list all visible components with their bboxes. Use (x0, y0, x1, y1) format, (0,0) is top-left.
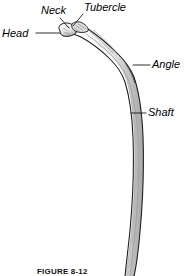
rib-outline-fill (62, 24, 143, 276)
label-shaft: Shaft (148, 107, 174, 118)
rib-body (59, 22, 143, 276)
label-head: Head (2, 28, 28, 39)
label-tubercle: Tubercle (84, 2, 126, 13)
rib-inner-shading-line (92, 38, 137, 232)
rib-illustration (0, 0, 188, 276)
rib-tubercle-fill (72, 22, 89, 33)
label-angle: Angle (152, 59, 180, 70)
rib-anatomy-figure: Head Neck Tubercle Angle Shaft FIGURE 8-… (0, 0, 188, 276)
label-neck: Neck (41, 5, 66, 16)
figure-caption: FIGURE 8-12 (37, 267, 88, 276)
